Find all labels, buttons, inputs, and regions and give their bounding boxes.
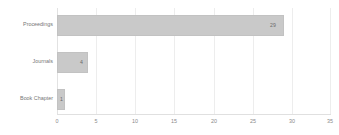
category-label-journals: Journals (1, 59, 53, 64)
xtick-label: 5 (95, 119, 98, 124)
gridline-35 (330, 8, 331, 114)
plot-area: 29 4 1 (57, 8, 331, 114)
xtick-label: 30 (289, 119, 295, 124)
category-label-book-chapter: Book Chapter (1, 96, 53, 101)
bar-value-book-chapter: 1 (60, 97, 63, 102)
x-axis-line (57, 114, 331, 115)
xtick-label: 35 (327, 119, 333, 124)
category-label-proceedings: Proceedings (1, 22, 53, 27)
y-axis-labels: Proceedings Journals Book Chapter (0, 8, 53, 114)
xtick-label: 0 (56, 119, 59, 124)
bar-chart: 29 4 1 Proceedings Journals Book Chapter… (0, 0, 339, 135)
xtick-label: 15 (171, 119, 177, 124)
bar-value-journals: 4 (80, 60, 83, 65)
bar-proceedings[interactable] (57, 15, 284, 36)
bar-value-proceedings: 29 (270, 23, 276, 28)
gridline-30 (292, 8, 293, 114)
xtick-label: 20 (211, 119, 217, 124)
xtick-label: 25 (250, 119, 256, 124)
xtick-label: 10 (132, 119, 138, 124)
bar-journals[interactable] (57, 52, 88, 73)
